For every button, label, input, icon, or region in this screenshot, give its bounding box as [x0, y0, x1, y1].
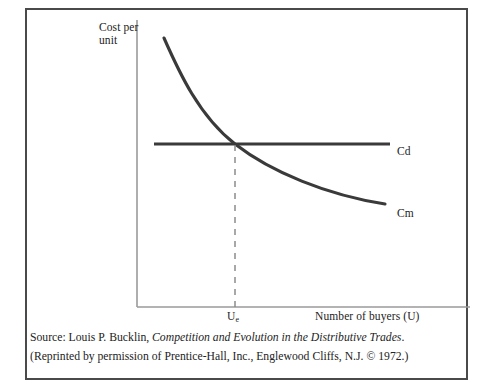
figure-frame: Cost per unit Number of buyers (U) Ue Cd… [25, 8, 468, 380]
x-axis-label: Number of buyers (U) [315, 310, 420, 323]
source-prefix: Source: Louis P. Bucklin, [30, 331, 152, 344]
source-suffix: . [401, 331, 404, 344]
source-title: Competition and Evolution in the Distrib… [152, 331, 401, 344]
cm-curve [164, 38, 385, 204]
chart-area: Cost per unit Number of buyers (U) Ue Cd… [27, 10, 470, 328]
source-line-2: (Reprinted by permission of Prentice-Hal… [30, 347, 466, 366]
y-axis-label: Cost per unit [99, 21, 138, 47]
cd-curve-label: Cd [397, 145, 411, 157]
cost-curves-plot [27, 10, 470, 328]
source-caption: Source: Louis P. Bucklin, Competition an… [30, 328, 466, 366]
equilibrium-tick-label: Ue [227, 310, 239, 326]
cm-curve-label: Cm [397, 207, 414, 219]
equilibrium-tick-subscript: e [235, 315, 239, 324]
source-line-1: Source: Louis P. Bucklin, Competition an… [30, 328, 466, 347]
